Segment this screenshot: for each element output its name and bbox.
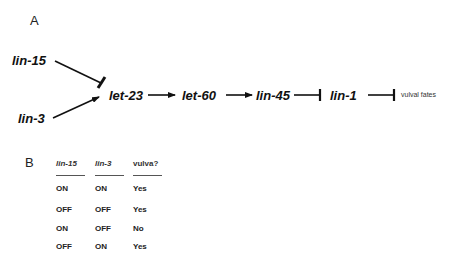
inhibit-edge-lin45-lin1 — [294, 89, 320, 101]
node-lin-1: lin-1 — [330, 88, 357, 103]
cell-lin-15: OFF — [56, 205, 72, 214]
node-let-23: let-23 — [109, 88, 143, 103]
cell-lin-3: ON — [95, 242, 107, 251]
inhibit-edge-lin15-let23 — [55, 61, 105, 88]
header-underline — [95, 175, 124, 176]
table-header-lin-15: lin-15 — [56, 159, 77, 168]
cell-lin-15: OFF — [56, 242, 72, 251]
header-underline — [133, 175, 162, 176]
cell-lin-15: ON — [56, 184, 68, 193]
header-underline — [56, 175, 85, 176]
node-let-60: let-60 — [182, 88, 216, 103]
pathway-diagram — [0, 0, 459, 263]
node-lin-3: lin-3 — [18, 111, 45, 126]
cell-vulva: No — [133, 224, 144, 233]
cell-lin-15: ON — [56, 224, 68, 233]
cell-vulva: Yes — [133, 242, 147, 251]
inhibit-edge-lin1-vulval — [368, 89, 394, 101]
cell-lin-3: OFF — [95, 205, 111, 214]
activate-edge-lin3-let23 — [53, 97, 99, 118]
cell-vulva: Yes — [133, 184, 147, 193]
table-header-lin-3: lin-3 — [95, 159, 111, 168]
node-lin-45: lin-45 — [256, 88, 290, 103]
node-vulval-fates: vulval fates — [401, 91, 436, 98]
cell-vulva: Yes — [133, 205, 147, 214]
table-header-vulva: vulva? — [133, 159, 158, 168]
node-lin-15: lin-15 — [12, 53, 46, 68]
cell-lin-3: OFF — [95, 224, 111, 233]
cell-lin-3: ON — [95, 184, 107, 193]
panel-b-label: B — [25, 155, 34, 170]
